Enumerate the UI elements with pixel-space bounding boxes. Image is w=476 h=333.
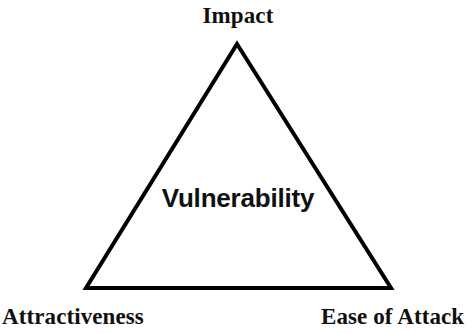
- vulnerability-triangle-shape: [0, 0, 476, 333]
- vertex-label-ease-of-attack: Ease of Attack: [321, 305, 464, 328]
- center-label-vulnerability: Vulnerability: [0, 185, 476, 211]
- vertex-label-attractiveness: Attractiveness: [2, 305, 144, 328]
- triangle-outline: [86, 44, 391, 288]
- diagram-canvas: Impact Vulnerability Attractiveness Ease…: [0, 0, 476, 333]
- vertex-label-impact: Impact: [0, 4, 476, 27]
